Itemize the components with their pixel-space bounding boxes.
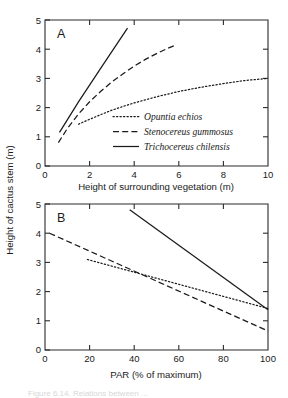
panel-b-line-trichocereus-chilensis bbox=[130, 210, 268, 310]
panel-b-ytick-4: 4 bbox=[36, 228, 41, 239]
panel-b-y-ticks bbox=[45, 204, 268, 350]
legend: Opuntia echios Stenocereus gummosus Tric… bbox=[113, 111, 233, 152]
panel-b-ytick-1: 1 bbox=[36, 315, 41, 326]
panel-b-x-ticklabels: 0 20 40 60 80 100 bbox=[42, 353, 276, 364]
panel-b-letter: B bbox=[57, 211, 65, 225]
panel-a-xtick-4: 4 bbox=[132, 169, 137, 180]
panel-a-ytick-2: 2 bbox=[36, 102, 41, 113]
panel-b-frame bbox=[45, 204, 268, 350]
panel-a-ytick-0: 0 bbox=[36, 160, 41, 171]
legend-label-opuntia-echios: Opuntia echios bbox=[144, 111, 203, 122]
panel-a-xtick-2: 2 bbox=[87, 169, 92, 180]
panel-a-x-axis-label: Height of surrounding vegetation (m) bbox=[78, 181, 234, 192]
panel-a-ytick-1: 1 bbox=[36, 131, 41, 142]
panel-b-xtick-80: 80 bbox=[218, 353, 229, 364]
panel-a-ytick-3: 3 bbox=[36, 73, 41, 84]
panel-a-xtick-10: 10 bbox=[263, 169, 274, 180]
panel-b-ytick-5: 5 bbox=[36, 199, 41, 210]
panel-b-ytick-2: 2 bbox=[36, 286, 41, 297]
panel-b: 0 1 2 3 4 5 0 20 40 60 bbox=[36, 199, 276, 380]
panel-a-ytick-4: 4 bbox=[36, 44, 41, 55]
panel-b-xtick-0: 0 bbox=[42, 353, 47, 364]
panel-a-x-ticklabels: 0 2 4 6 8 10 bbox=[42, 169, 273, 180]
panel-b-line-stenocereus-gummosus bbox=[50, 233, 269, 331]
panel-b-x-axis-label: PAR (% of maximum) bbox=[110, 369, 202, 380]
panel-a-xtick-8: 8 bbox=[221, 169, 226, 180]
legend-label-stenocereus-gummosus: Stenocereus gummosus bbox=[144, 126, 233, 137]
panel-a-y-ticklabels: 0 1 2 3 4 5 bbox=[36, 15, 41, 172]
panel-a-ytick-5: 5 bbox=[36, 15, 41, 26]
figure-container: Height of cactus stem (m) 0 1 2 bbox=[0, 0, 288, 398]
panel-a: 0 1 2 3 4 5 0 2 4 6 bbox=[36, 15, 274, 192]
legend-label-trichocereus-chilensis: Trichocereus chilensis bbox=[144, 141, 230, 152]
panel-b-xtick-100: 100 bbox=[260, 353, 276, 364]
panel-a-xtick-0: 0 bbox=[42, 169, 47, 180]
panel-b-ytick-3: 3 bbox=[36, 257, 41, 268]
panel-a-letter: A bbox=[57, 27, 66, 41]
panel-b-x-ticks bbox=[90, 204, 224, 350]
panel-b-xtick-40: 40 bbox=[129, 353, 140, 364]
panel-b-y-ticklabels: 0 1 2 3 4 5 bbox=[36, 199, 41, 356]
figure-svg: Height of cactus stem (m) 0 1 2 bbox=[0, 0, 288, 398]
figure-caption-fragment: Figure 6.14. Relations between ... bbox=[28, 389, 228, 398]
panel-b-ytick-0: 0 bbox=[36, 344, 41, 355]
shared-y-axis-label: Height of cactus stem (m) bbox=[4, 145, 15, 254]
panel-b-xtick-60: 60 bbox=[174, 353, 185, 364]
panel-a-xtick-6: 6 bbox=[176, 169, 181, 180]
panel-b-line-opuntia-echios bbox=[87, 260, 268, 309]
panel-b-xtick-20: 20 bbox=[84, 353, 95, 364]
